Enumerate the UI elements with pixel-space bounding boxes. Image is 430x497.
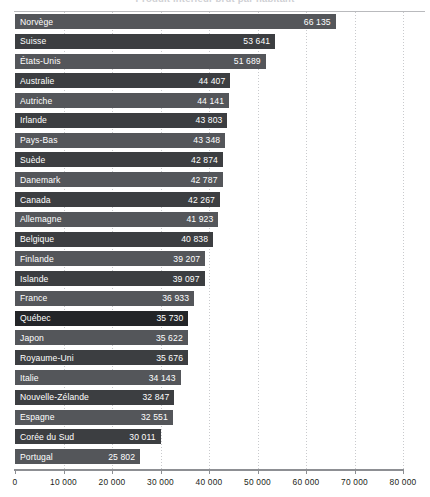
bar: Danemark42 787: [15, 172, 223, 187]
bar: Suisse53 641: [15, 34, 275, 49]
bar-row[interactable]: Royaume-Uni35 676: [15, 350, 188, 365]
x-tick-20000: [112, 469, 113, 474]
bar: Australie44 407: [15, 73, 230, 88]
bar: Islande39 097: [15, 271, 205, 286]
bar-category-label: Suède: [20, 155, 45, 165]
chart-title: Produit intérieur brut par habitant: [0, 0, 430, 4]
x-axis-labels: 010 00020 00030 00040 00050 00060 00070 …: [0, 477, 430, 491]
bar-value-label: 43 803: [196, 115, 223, 125]
bar: Québec35 730: [15, 311, 188, 326]
bar-value-label: 42 874: [191, 155, 218, 165]
bar: Portugal25 802: [15, 449, 140, 464]
bar: France36 933: [15, 291, 194, 306]
x-tick-40000: [209, 469, 210, 474]
bar-row[interactable]: Nouvelle-Zélande32 847: [15, 390, 174, 405]
x-tick-30000: [161, 469, 162, 474]
bar: Italie34 143: [15, 370, 181, 385]
bar-row[interactable]: Japon35 622: [15, 330, 188, 345]
bar-category-label: Finlande: [20, 254, 54, 264]
bar-row[interactable]: Portugal25 802: [15, 449, 140, 464]
bar: Finlande39 207: [15, 251, 205, 266]
bar-value-label: 30 011: [129, 432, 155, 442]
plot-area: Norvège66 135Suisse53 641États-Unis51 68…: [15, 12, 418, 469]
bar-value-label: 35 730: [156, 313, 183, 323]
bar-value-label: 39 207: [173, 254, 200, 264]
bar-category-label: Belgique: [20, 234, 54, 244]
bar-row[interactable]: Suède42 874: [15, 152, 223, 167]
bar-value-label: 25 802: [108, 452, 135, 462]
bar-row[interactable]: Allemagne41 923: [15, 212, 218, 227]
bar-value-label: 40 838: [181, 234, 208, 244]
x-tick-70000: [355, 469, 356, 474]
bar-category-label: États-Unis: [20, 56, 61, 66]
x-tick-label-50000: 50 000: [244, 477, 271, 487]
bar: Autriche44 141: [15, 93, 229, 108]
bar-category-label: Nouvelle-Zélande: [20, 392, 89, 402]
bar-row[interactable]: Norvège66 135: [15, 14, 336, 29]
bar-value-label: 32 847: [142, 392, 169, 402]
bar-value-label: 39 097: [173, 274, 200, 284]
bar-row[interactable]: Irlande43 803: [15, 113, 227, 128]
bar-category-label: Pays-Bas: [20, 135, 58, 145]
bar: États-Unis51 689: [15, 54, 266, 69]
bar-category-label: Suisse: [20, 36, 46, 46]
bar: Corée du Sud30 011: [15, 429, 161, 444]
bar-row[interactable]: France36 933: [15, 291, 194, 306]
x-tick-label-30000: 30 000: [147, 477, 174, 487]
bar: Nouvelle-Zélande32 847: [15, 390, 174, 405]
bar: Belgique40 838: [15, 232, 213, 247]
bar-value-label: 41 923: [186, 214, 213, 224]
bar-category-label: Allemagne: [20, 214, 62, 224]
bar-value-label: 44 407: [198, 76, 225, 86]
bar-row[interactable]: Suisse53 641: [15, 34, 275, 49]
bar: Pays-Bas43 348: [15, 133, 225, 148]
bar-row[interactable]: Espagne32 551: [15, 410, 173, 425]
bar-value-label: 51 689: [234, 56, 261, 66]
bar-category-label: Islande: [20, 274, 48, 284]
bar-value-label: 43 348: [193, 135, 220, 145]
bar-value-label: 32 551: [141, 412, 168, 422]
bar-category-label: France: [20, 293, 47, 303]
bar-value-label: 35 676: [156, 353, 183, 363]
bar-row[interactable]: Italie34 143: [15, 370, 181, 385]
bar-category-label: Espagne: [20, 412, 55, 422]
bar-row[interactable]: Québec35 730: [15, 311, 188, 326]
x-tick-80000: [403, 469, 404, 474]
x-tick-label-10000: 10 000: [50, 477, 77, 487]
bar-rows: Norvège66 135Suisse53 641États-Unis51 68…: [15, 12, 418, 469]
bar-row[interactable]: Canada42 267: [15, 192, 220, 207]
bar-row[interactable]: États-Unis51 689: [15, 54, 266, 69]
bar-row[interactable]: Autriche44 141: [15, 93, 229, 108]
x-tick-label-80000: 80 000: [390, 477, 417, 487]
bar-row[interactable]: Islande39 097: [15, 271, 205, 286]
bar: Allemagne41 923: [15, 212, 218, 227]
bar-category-label: Royaume-Uni: [20, 353, 74, 363]
bar-category-label: Québec: [20, 313, 51, 323]
bar-category-label: Canada: [20, 195, 51, 205]
bar-category-label: Irlande: [20, 115, 47, 125]
bar: Japon35 622: [15, 330, 188, 345]
bar-value-label: 36 933: [162, 293, 189, 303]
bar-row[interactable]: Belgique40 838: [15, 232, 213, 247]
bar-row[interactable]: Danemark42 787: [15, 172, 223, 187]
bar: Espagne32 551: [15, 410, 173, 425]
bar-row[interactable]: Finlande39 207: [15, 251, 205, 266]
bar-row[interactable]: Pays-Bas43 348: [15, 133, 225, 148]
bar-category-label: Australie: [20, 76, 54, 86]
bar-category-label: Corée du Sud: [20, 432, 74, 442]
bar-row[interactable]: Corée du Sud30 011: [15, 429, 161, 444]
bar-value-label: 34 143: [149, 373, 176, 383]
bar-value-label: 53 641: [243, 36, 270, 46]
bar-category-label: Norvège: [20, 17, 53, 27]
bar-row[interactable]: Australie44 407: [15, 73, 230, 88]
x-tick-10000: [64, 469, 65, 474]
x-tick-label-70000: 70 000: [341, 477, 368, 487]
bar-category-label: Autriche: [20, 96, 52, 106]
x-tick-50000: [258, 469, 259, 474]
x-tick-label-0: 0: [13, 477, 18, 487]
bar: Canada42 267: [15, 192, 220, 207]
bar-category-label: Italie: [20, 373, 39, 383]
bar-value-label: 42 787: [191, 175, 218, 185]
x-tick-0: [15, 469, 16, 474]
bar-category-label: Danemark: [20, 175, 60, 185]
